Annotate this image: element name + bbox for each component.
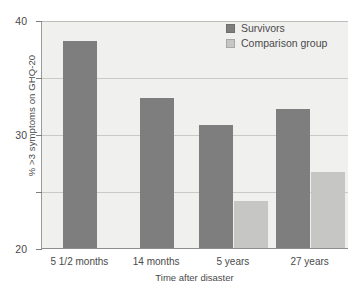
bar — [311, 172, 345, 248]
legend-item-survivors: Survivors — [226, 22, 327, 34]
legend-label-comparison-group: Comparison group — [241, 37, 327, 49]
x-axis-tick-label: 14 months — [133, 256, 180, 267]
y-axis-tick: 30 — [36, 78, 42, 79]
legend-swatch-survivors — [226, 24, 235, 33]
y-axis-tick-label: 20 — [15, 243, 27, 255]
bar — [276, 109, 310, 248]
chart-legend: Survivors Comparison group — [226, 22, 327, 49]
legend-label-survivors: Survivors — [241, 22, 285, 34]
x-axis-tick-label: 5 1/2 months — [50, 256, 108, 267]
x-axis-tick-label: 5 years — [216, 256, 249, 267]
x-axis-tick-label: 27 years — [290, 256, 328, 267]
legend-item-comparison-group: Comparison group — [226, 37, 327, 49]
y-axis-tick: 0 — [36, 249, 42, 250]
y-axis-tick-label: 30 — [15, 129, 27, 141]
bar — [199, 125, 233, 248]
legend-swatch-comparison-group — [226, 39, 235, 48]
bar-chart-figure: % >3 symptoms on GHQ-20 010203040 Time a… — [0, 0, 357, 289]
y-axis-tick: 20 — [36, 135, 42, 136]
plot-area: 010203040 — [41, 21, 348, 249]
x-axis-title: Time after disaster — [41, 272, 348, 283]
y-axis-title: % >3 symptoms on GHQ-20 — [26, 16, 37, 216]
y-axis-tick: 40 — [36, 21, 42, 22]
bar — [140, 98, 174, 248]
bar — [63, 41, 97, 248]
y-axis-tick-label: 40 — [15, 15, 27, 27]
y-axis-tick: 10 — [36, 192, 42, 193]
bar — [234, 201, 268, 248]
